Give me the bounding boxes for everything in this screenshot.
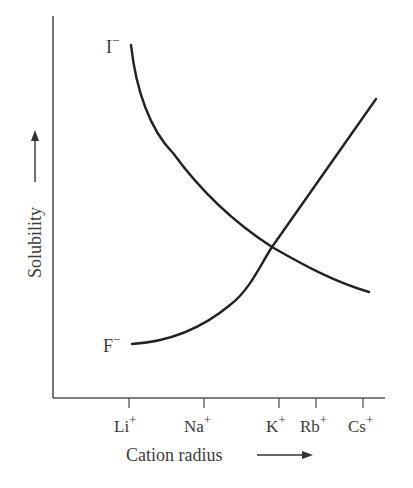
tick-label-na: Na+ bbox=[184, 412, 211, 436]
series-label-i: I− bbox=[106, 33, 119, 57]
series-f-curve bbox=[132, 99, 376, 344]
series-label-f: F− bbox=[103, 332, 120, 356]
y-arrow-icon bbox=[31, 130, 39, 182]
x-axis-label: Cation radius bbox=[126, 445, 223, 465]
x-arrow-icon bbox=[257, 451, 313, 459]
series-i-curve bbox=[131, 45, 369, 292]
x-ticks bbox=[129, 398, 363, 408]
y-axis-label: Solubility bbox=[25, 207, 45, 278]
tick-label-rb: Rb+ bbox=[300, 412, 327, 436]
tick-label-li: Li+ bbox=[114, 412, 136, 436]
solubility-chart: Li+ Na+ K+ Rb+ Cs+ Cation radius Solubil… bbox=[0, 0, 413, 488]
tick-label-cs: Cs+ bbox=[348, 412, 373, 436]
tick-label-k: K+ bbox=[266, 412, 286, 436]
